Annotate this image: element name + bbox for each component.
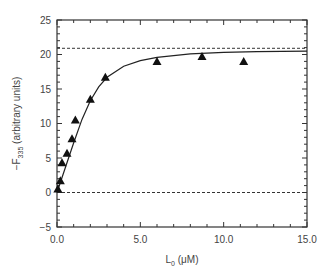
fit-curve: [57, 51, 307, 192]
x-tick-label: 0.0: [50, 234, 64, 245]
y-axis-label: −F335 (arbitrary units): [11, 77, 24, 171]
y-tick-label: 5: [45, 153, 51, 164]
y-tick-label: −5: [40, 222, 52, 233]
y-tick-label: 10: [40, 118, 52, 129]
y-tick-label: 0: [45, 187, 51, 198]
y-tick-label: 25: [40, 15, 52, 26]
x-tick-label: 15.0: [297, 234, 317, 245]
data-point-triangle: [58, 158, 67, 166]
binding-curve-plot: −505101520250.05.010.015.0L0 (μM)−F335 (…: [0, 0, 331, 275]
data-point-triangle: [71, 116, 80, 124]
y-tick-label: 15: [40, 84, 52, 95]
y-tick-label: 20: [40, 49, 52, 60]
data-point-triangle: [53, 185, 62, 193]
x-axis-label: L0 (μM): [166, 254, 199, 267]
chart: −505101520250.05.010.015.0L0 (μM)−F335 (…: [0, 0, 331, 275]
x-tick-label: 10.0: [214, 234, 234, 245]
data-point-triangle: [239, 57, 248, 65]
x-tick-label: 5.0: [133, 234, 147, 245]
